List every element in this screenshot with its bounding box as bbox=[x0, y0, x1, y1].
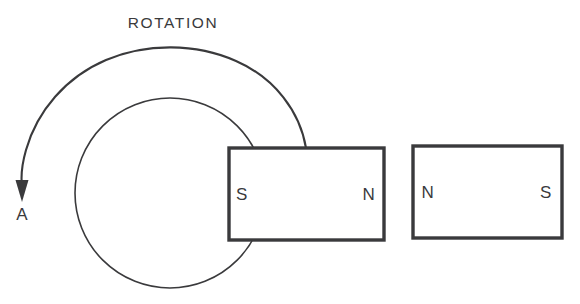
diagram-canvas: S N N S ROTATION A bbox=[0, 0, 580, 304]
rotation-title-label: ROTATION bbox=[128, 14, 219, 31]
fixed-magnet-left-pole-label: N bbox=[422, 183, 435, 202]
rotating-magnet bbox=[229, 148, 384, 240]
rotation-arrow-head bbox=[16, 180, 29, 202]
rotating-magnet-right-pole-label: N bbox=[363, 185, 376, 204]
point-a-label: A bbox=[16, 205, 28, 224]
fixed-magnet-right-pole-label: S bbox=[540, 183, 552, 202]
magnet-rotation-diagram: S N N S ROTATION A bbox=[0, 0, 580, 304]
rotating-magnet-left-pole-label: S bbox=[236, 185, 248, 204]
